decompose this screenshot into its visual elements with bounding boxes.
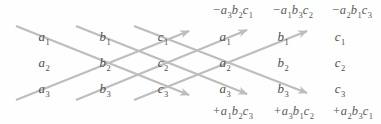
entry-right-a1: a1 — [219, 30, 230, 43]
factor-var: a — [221, 104, 227, 118]
entry-sub: 1 — [284, 36, 288, 46]
plus-sign: + — [333, 104, 340, 118]
entry-sub: 1 — [164, 36, 168, 46]
entry-var: c — [158, 29, 164, 44]
factor-sub: 2 — [309, 9, 313, 19]
entry-left-c3: c3 — [158, 82, 169, 95]
entry-sub: 3 — [164, 88, 168, 98]
minus-sign: − — [273, 3, 280, 17]
factor-var: c — [304, 104, 310, 118]
factor-sub: 3 — [249, 110, 253, 120]
entry-left-b3: b3 — [99, 82, 110, 95]
entry-var: b — [99, 81, 106, 96]
entry-sub: 2 — [45, 62, 49, 72]
entry-right-b1: b1 — [277, 30, 288, 43]
product-pos-a2b3c1: +a2b3c1 — [333, 105, 373, 118]
entry-var: b — [99, 55, 106, 70]
factor-var: b — [292, 3, 298, 17]
entry-var: c — [335, 29, 341, 44]
minus-sign: − — [332, 3, 339, 17]
entry-var: a — [38, 29, 45, 44]
factor-var: a — [281, 3, 287, 17]
entry-sub: 1 — [106, 36, 110, 46]
factor-var: a — [340, 3, 346, 17]
entry-left-a2: a2 — [38, 56, 49, 69]
entry-right-a3: a3 — [219, 82, 230, 95]
product-neg-a3b2c1: −a3b2c1 — [213, 4, 253, 17]
entry-left-c1: c1 — [158, 30, 169, 43]
entry-sub: 3 — [284, 88, 288, 98]
plus-sign: + — [274, 104, 281, 118]
entry-sub: 3 — [341, 88, 345, 98]
product-neg-a2b1c3: −a2b1c3 — [332, 4, 372, 17]
determinant-sarrus-rule-diagram: a1 b1 c1 a2 b2 c2 a3 b3 c3 a1 b1 c1 a2 b… — [0, 0, 381, 124]
factor-var: c — [243, 104, 249, 118]
plus-sign: + — [213, 104, 220, 118]
diagonal-arrows-layer — [0, 0, 381, 124]
factor-var: c — [303, 3, 309, 17]
entry-left-a3: a3 — [38, 82, 49, 95]
factor-var: c — [362, 3, 368, 17]
entry-right-a2: a2 — [219, 56, 230, 69]
entry-right-b3: b3 — [277, 82, 288, 95]
entry-right-c2: c2 — [335, 56, 346, 69]
factor-var: b — [351, 3, 357, 17]
entry-left-c2: c2 — [158, 56, 169, 69]
entry-sub: 2 — [226, 62, 230, 72]
factor-sub: 1 — [369, 110, 373, 120]
factor-var: a — [221, 3, 227, 17]
entry-sub: 1 — [45, 36, 49, 46]
entry-var: a — [219, 55, 226, 70]
factor-var: c — [363, 104, 369, 118]
entry-sub: 3 — [226, 88, 230, 98]
factor-var: b — [352, 104, 358, 118]
entry-var: c — [158, 55, 164, 70]
entry-left-b2: b2 — [99, 56, 110, 69]
entry-sub: 2 — [164, 62, 168, 72]
entry-left-a1: a1 — [38, 30, 49, 43]
entry-right-b2: b2 — [277, 56, 288, 69]
factor-sub: 2 — [310, 110, 314, 120]
product-neg-a1b3c2: −a1b3c2 — [273, 4, 313, 17]
factor-var: b — [293, 104, 299, 118]
entry-var: a — [219, 29, 226, 44]
entry-var: a — [219, 81, 226, 96]
product-pos-a3b1c2: +a3b1c2 — [274, 105, 314, 118]
entry-sub: 2 — [106, 62, 110, 72]
entry-sub: 3 — [45, 88, 49, 98]
entry-sub: 2 — [284, 62, 288, 72]
entry-left-b1: b1 — [99, 30, 110, 43]
entry-sub: 3 — [106, 88, 110, 98]
factor-var: a — [282, 104, 288, 118]
entry-var: c — [335, 55, 341, 70]
factor-var: b — [232, 3, 238, 17]
entry-right-c1: c1 — [335, 30, 346, 43]
factor-sub: 1 — [249, 9, 253, 19]
factor-var: c — [243, 3, 249, 17]
product-pos-a1b2c3: +a1b2c3 — [213, 105, 253, 118]
entry-var: b — [277, 55, 284, 70]
entry-var: c — [158, 81, 164, 96]
entry-var: c — [335, 81, 341, 96]
entry-var: a — [38, 81, 45, 96]
entry-var: b — [277, 29, 284, 44]
entry-right-c3: c3 — [335, 82, 346, 95]
factor-var: a — [341, 104, 347, 118]
entry-var: b — [99, 29, 106, 44]
factor-var: b — [232, 104, 238, 118]
minus-sign: − — [213, 3, 220, 17]
entry-var: a — [38, 55, 45, 70]
entry-sub: 1 — [341, 36, 345, 46]
entry-var: b — [277, 81, 284, 96]
factor-sub: 3 — [368, 9, 372, 19]
entry-sub: 1 — [226, 36, 230, 46]
entry-sub: 2 — [341, 62, 345, 72]
